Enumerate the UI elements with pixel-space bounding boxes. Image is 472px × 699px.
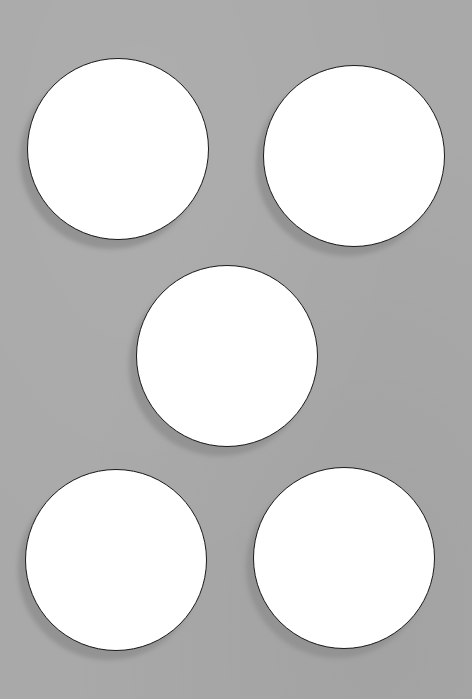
paper-circle-center xyxy=(136,265,318,447)
paper-circle-bottom-right xyxy=(253,467,435,649)
paper-circle-top-right xyxy=(263,65,445,247)
paper-circle-bottom-left xyxy=(25,469,207,651)
paper-circle-top-left xyxy=(27,58,209,240)
